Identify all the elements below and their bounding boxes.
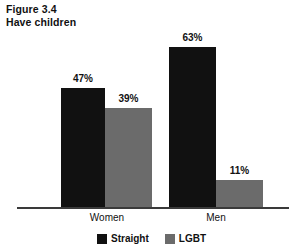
legend-label-lgbt: LGBT bbox=[179, 233, 206, 244]
bar-label-women-straight: 47% bbox=[61, 73, 105, 84]
chart-legend: Straight LGBT bbox=[0, 233, 303, 244]
bar-women-lgbt bbox=[105, 108, 152, 208]
bar-label-women-lgbt: 39% bbox=[105, 93, 152, 104]
bar-label-men-lgbt: 11% bbox=[216, 165, 263, 176]
plot-area: 47% 39% 63% 11% Women Men bbox=[0, 0, 303, 252]
legend-item-lgbt: LGBT bbox=[165, 233, 206, 244]
bar-men-lgbt bbox=[216, 180, 263, 208]
legend-label-straight: Straight bbox=[111, 233, 149, 244]
figure-3-4-have-children-chart: Figure 3.4 Have children 47% 39% 63% 11%… bbox=[0, 0, 303, 252]
bar-men-straight bbox=[169, 47, 216, 208]
bar-women-straight bbox=[61, 88, 105, 208]
x-axis-tick-label-women: Women bbox=[67, 212, 147, 223]
legend-swatch-icon-straight bbox=[97, 234, 107, 244]
legend-item-straight: Straight bbox=[97, 233, 149, 244]
x-axis-line bbox=[17, 207, 289, 209]
x-axis-tick-label-men: Men bbox=[176, 212, 256, 223]
bar-label-men-straight: 63% bbox=[169, 32, 216, 43]
legend-swatch-icon-lgbt bbox=[165, 234, 175, 244]
